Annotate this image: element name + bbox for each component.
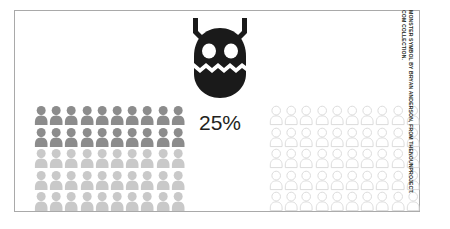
infographic-canvas: 25% MONSTER SYMBOL BY BRYAN ANDERSON, FR…	[0, 0, 450, 229]
pictogram-person-icon	[375, 191, 390, 213]
pictogram-person-icon	[375, 148, 390, 170]
pictogram-person-icon	[375, 170, 390, 192]
pictogram-person-icon	[34, 105, 49, 127]
pictogram-person-icon	[299, 105, 314, 127]
pictogram-person-icon	[299, 191, 314, 213]
pictogram-person-icon	[95, 191, 110, 213]
pictogram-person-icon	[360, 105, 375, 127]
pictogram-person-icon	[315, 105, 330, 127]
pictogram-person-icon	[95, 148, 110, 170]
pictogram-person-icon	[171, 170, 186, 192]
pictogram-person-icon	[125, 148, 140, 170]
pictogram-person-icon	[360, 170, 375, 192]
pictogram-person-icon	[34, 148, 49, 170]
pictogram-person-icon	[269, 148, 284, 170]
pictogram-person-icon	[269, 170, 284, 192]
pictogram-person-icon	[64, 105, 79, 127]
credit-line-2: COM COLLECTION.	[401, 10, 408, 212]
pictogram-person-icon	[80, 127, 95, 149]
pictogram-person-icon	[80, 191, 95, 213]
pictogram-person-icon	[140, 170, 155, 192]
pictogram-person-icon	[156, 170, 171, 192]
pictogram-person-icon	[156, 148, 171, 170]
pictogram-person-icon	[64, 127, 79, 149]
pictogram-person-icon	[360, 127, 375, 149]
pictogram-person-icon	[284, 170, 299, 192]
pictogram-person-icon	[34, 170, 49, 192]
pictogram-person-icon	[64, 148, 79, 170]
pictogram-person-icon	[299, 148, 314, 170]
credit-line-1: MONSTER SYMBOL BY BRYAN ANDERSON, FROM T…	[407, 10, 414, 212]
pictogram-person-icon	[125, 191, 140, 213]
credit-text: MONSTER SYMBOL BY BRYAN ANDERSON, FROM T…	[396, 10, 414, 212]
pictogram-person-icon	[330, 127, 345, 149]
pictogram-person-icon	[345, 127, 360, 149]
pictogram-person-icon	[140, 148, 155, 170]
pictogram-person-icon	[375, 127, 390, 149]
pictogram-person-icon	[345, 170, 360, 192]
pictogram-person-icon	[315, 191, 330, 213]
pictogram-person-icon	[49, 148, 64, 170]
pictogram-person-icon	[315, 148, 330, 170]
pictogram-person-icon	[110, 170, 125, 192]
pictogram-person-icon	[315, 170, 330, 192]
pictogram-person-icon	[171, 105, 186, 127]
pictogram-person-icon	[140, 105, 155, 127]
pictogram-person-icon	[330, 105, 345, 127]
pictogram-person-icon	[49, 105, 64, 127]
pictogram-person-icon	[95, 105, 110, 127]
pictogram-person-icon	[64, 191, 79, 213]
pictogram-person-icon	[140, 191, 155, 213]
pictogram-person-icon	[49, 170, 64, 192]
pictogram-person-icon	[110, 191, 125, 213]
pictogram-person-icon	[330, 148, 345, 170]
pictogram-person-icon	[156, 191, 171, 213]
pictogram-person-icon	[360, 191, 375, 213]
pictogram-person-icon	[284, 191, 299, 213]
pictogram-person-icon	[375, 105, 390, 127]
pictogram-person-icon	[284, 105, 299, 127]
pictogram-person-icon	[125, 105, 140, 127]
pictogram-person-icon	[80, 105, 95, 127]
pictogram-person-icon	[49, 191, 64, 213]
pictogram-person-icon	[269, 127, 284, 149]
pictogram-person-icon	[299, 127, 314, 149]
pictogram-person-icon	[110, 127, 125, 149]
infographic-panel: 25%	[14, 10, 420, 212]
pictogram-person-icon	[49, 127, 64, 149]
pictogram-person-icon	[269, 105, 284, 127]
pictogram-person-icon	[284, 148, 299, 170]
pictogram-person-icon	[345, 191, 360, 213]
pictogram-person-icon	[80, 170, 95, 192]
pictogram-person-icon	[345, 105, 360, 127]
pictogram-person-icon	[284, 127, 299, 149]
pictogram-person-icon	[95, 127, 110, 149]
pictogram-person-icon	[156, 105, 171, 127]
pictogram-person-icon	[330, 170, 345, 192]
pictogram-person-icon	[140, 127, 155, 149]
pictogram-person-icon	[171, 191, 186, 213]
pictogram-person-icon	[80, 148, 95, 170]
pictogram-grid-filled	[34, 105, 186, 213]
pictogram-person-icon	[34, 127, 49, 149]
pictogram-person-icon	[315, 127, 330, 149]
monster-symbol-icon	[178, 14, 262, 104]
pictogram-person-icon	[171, 148, 186, 170]
pictogram-person-icon	[125, 127, 140, 149]
pictogram-person-icon	[360, 148, 375, 170]
pictogram-person-icon	[64, 170, 79, 192]
pictogram-person-icon	[171, 127, 186, 149]
pictogram-person-icon	[299, 170, 314, 192]
pictogram-person-icon	[269, 191, 284, 213]
percent-value-label: 25%	[175, 112, 265, 133]
pictogram-person-icon	[125, 170, 140, 192]
pictogram-person-icon	[156, 127, 171, 149]
pictogram-person-icon	[110, 148, 125, 170]
pictogram-person-icon	[34, 191, 49, 213]
pictogram-person-icon	[330, 191, 345, 213]
pictogram-person-icon	[345, 148, 360, 170]
pictogram-person-icon	[95, 170, 110, 192]
pictogram-person-icon	[110, 105, 125, 127]
